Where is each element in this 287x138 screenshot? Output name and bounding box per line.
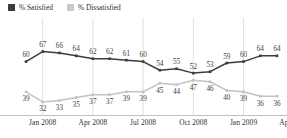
- data-label: 64: [73, 45, 81, 53]
- data-label: 39: [140, 95, 148, 103]
- data-point-marker: [226, 89, 229, 92]
- data-point-marker: [41, 101, 44, 104]
- x-axis: Jan 2008Apr 2008Jul 2008Oct 2008Jan 2009…: [0, 118, 287, 134]
- x-tick-label-2: Jul 2008: [130, 118, 156, 127]
- data-label: 61: [123, 50, 131, 58]
- data-label: 64: [257, 45, 265, 53]
- data-point-marker: [259, 95, 262, 98]
- data-label: 36: [257, 100, 265, 108]
- data-label: 35: [73, 101, 81, 109]
- data-point-marker: [75, 55, 78, 58]
- data-point-marker: [192, 72, 195, 75]
- legend-item-satisfied: % Satisfied: [8, 3, 53, 12]
- data-point-marker: [25, 60, 28, 63]
- data-point-marker: [175, 83, 178, 86]
- data-point-marker: [226, 62, 229, 65]
- data-point-marker: [125, 59, 128, 62]
- data-point-marker: [108, 93, 111, 96]
- data-label: 59: [223, 53, 231, 61]
- legend-item-dissatisfied: % Dissatisfied: [67, 3, 121, 12]
- data-label: 62: [106, 48, 114, 56]
- data-point-marker: [58, 52, 61, 55]
- data-point-marker: [242, 91, 245, 94]
- data-point-marker: [125, 91, 128, 94]
- legend-label-satisfied: % Satisfied: [19, 3, 53, 12]
- data-label: 44: [173, 88, 181, 96]
- data-point-marker: [159, 82, 162, 85]
- chart-container: % Satisfied % Dissatisfied 3932333537373…: [0, 0, 287, 138]
- x-tick-label-1: Apr 2008: [78, 118, 107, 127]
- data-label: 47: [190, 84, 198, 92]
- data-label: 32: [39, 105, 47, 113]
- line-chart-svg: 3932333537373939454447464039363660676664…: [0, 16, 287, 116]
- data-point-marker: [259, 55, 262, 58]
- data-point-marker: [175, 68, 178, 71]
- data-point-marker: [209, 70, 212, 73]
- data-label: 64: [273, 45, 281, 53]
- data-point-marker: [276, 95, 279, 98]
- chart-legend: % Satisfied % Dissatisfied: [8, 3, 121, 12]
- data-label: 39: [123, 95, 131, 103]
- data-label: 53: [206, 61, 214, 69]
- legend-label-dissatisfied: % Dissatisfied: [78, 3, 121, 12]
- data-label: 60: [22, 51, 30, 59]
- data-point-marker: [75, 96, 78, 99]
- x-tick-label-0: Jan 2008: [29, 118, 56, 127]
- data-label: 36: [273, 100, 281, 108]
- data-point-marker: [25, 91, 28, 94]
- data-label: 54: [156, 60, 164, 68]
- data-label: 37: [106, 98, 114, 106]
- x-tick-label-3: Oct 2008: [179, 118, 207, 127]
- data-point-marker: [142, 60, 145, 63]
- data-label: 46: [206, 85, 214, 93]
- data-point-marker: [58, 99, 61, 102]
- data-label: 67: [39, 41, 47, 49]
- legend-swatch-dissatisfied: [67, 4, 74, 11]
- data-point-marker: [276, 55, 279, 58]
- x-tick-label-5: Apr 2009: [279, 118, 287, 127]
- data-point-marker: [41, 50, 44, 53]
- data-point-marker: [159, 69, 162, 72]
- data-label: 39: [240, 95, 248, 103]
- data-label: 60: [140, 51, 148, 59]
- legend-swatch-satisfied: [8, 4, 15, 11]
- data-label: 33: [56, 104, 64, 112]
- data-point-marker: [108, 57, 111, 60]
- data-label: 62: [89, 48, 97, 56]
- data-point-marker: [92, 93, 95, 96]
- x-tick-label-4: Jan 2009: [230, 118, 257, 127]
- data-point-marker: [142, 91, 145, 94]
- data-point-marker: [192, 79, 195, 82]
- data-label: 55: [173, 58, 181, 66]
- data-point-marker: [209, 80, 212, 83]
- plot-area: 3932333537373939454447464039363660676664…: [0, 16, 287, 116]
- data-label: 40: [223, 94, 231, 102]
- data-label: 45: [156, 87, 164, 95]
- data-point-marker: [242, 60, 245, 63]
- data-label: 60: [240, 51, 248, 59]
- data-label: 52: [190, 63, 198, 71]
- data-point-marker: [92, 57, 95, 60]
- data-label: 66: [56, 42, 64, 50]
- data-label: 37: [89, 98, 97, 106]
- data-label: 39: [22, 95, 30, 103]
